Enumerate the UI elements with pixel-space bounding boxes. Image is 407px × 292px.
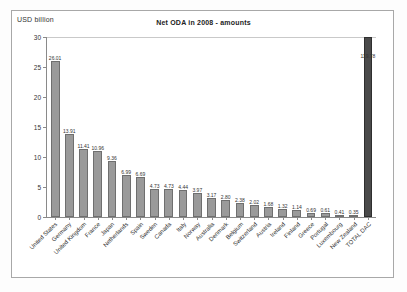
bar-series: 26.0113.9111.4110.969.366.996.694.734.73…: [47, 36, 376, 217]
x-axis-tick-slot: [361, 217, 375, 220]
bar[interactable]: 11.41: [79, 149, 88, 217]
x-axis-tick-slot: [347, 217, 361, 220]
bar-slot[interactable]: 2.80: [219, 36, 233, 217]
x-axis-tick-mark: [98, 217, 99, 220]
x-axis-tick-mark: [311, 217, 312, 220]
bar-value-label: 9.36: [107, 156, 117, 161]
bar-slot[interactable]: 6.69: [133, 36, 147, 217]
bar-slot[interactable]: 119.78: [361, 36, 375, 217]
bar[interactable]: 1.68: [264, 207, 273, 217]
x-axis-tick-mark: [126, 217, 127, 220]
bar-slot[interactable]: 1.68: [261, 36, 275, 217]
chart-title: Net ODA in 2008 - amounts: [0, 19, 407, 26]
x-axis-tick-mark: [183, 217, 184, 220]
bar-slot[interactable]: 10.96: [91, 36, 105, 217]
x-axis-tick-slot: [91, 217, 105, 220]
bar[interactable]: 6.99: [122, 175, 131, 217]
bar-slot[interactable]: 1.14: [290, 36, 304, 217]
bar-value-label: 6.69: [136, 172, 146, 177]
bar-slot[interactable]: 0.35: [347, 36, 361, 217]
bar[interactable]: 3.17: [207, 198, 216, 217]
bar-slot[interactable]: 1.32: [276, 36, 290, 217]
x-axis-tick-mark: [69, 217, 70, 220]
x-axis-tick-mark: [268, 217, 269, 220]
bar-slot[interactable]: 0.41: [332, 36, 346, 217]
y-axis-tick-label: 0: [37, 214, 41, 221]
x-axis-tick-mark: [140, 217, 141, 220]
bar[interactable]: 119.78: [364, 37, 373, 217]
bar[interactable]: 1.32: [278, 209, 287, 217]
bar-slot[interactable]: 13.91: [62, 36, 76, 217]
bar[interactable]: 2.38: [236, 203, 245, 217]
bar[interactable]: 4.73: [150, 189, 159, 217]
x-axis-tick-mark: [254, 217, 255, 220]
bar-value-label: 10.96: [92, 146, 105, 151]
bar[interactable]: 4.73: [164, 189, 173, 217]
x-axis-tick-mark: [297, 217, 298, 220]
x-axis-tick-slot: [148, 217, 162, 220]
x-axis-tick-slot: [62, 217, 76, 220]
y-axis-tick-label: 25: [34, 64, 41, 71]
bar[interactable]: 2.80: [221, 200, 230, 217]
bar-value-label: 26.01: [49, 56, 62, 61]
x-axis-tick-slot: [204, 217, 218, 220]
bar-slot[interactable]: 0.69: [304, 36, 318, 217]
bar-value-label: 3.97: [192, 188, 202, 193]
x-axis-tick-slot: [48, 217, 62, 220]
bar-slot[interactable]: 11.41: [76, 36, 90, 217]
bar-slot[interactable]: 0.61: [318, 36, 332, 217]
x-axis-tick-slot: [332, 217, 346, 220]
bar-value-label: 11.41: [77, 144, 89, 149]
bar[interactable]: 6.69: [136, 177, 145, 217]
bar[interactable]: 9.36: [108, 161, 117, 217]
bar-slot[interactable]: 2.02: [247, 36, 261, 217]
bar-value-label: 0.35: [349, 210, 359, 215]
bar[interactable]: 4.44: [179, 190, 188, 217]
bar-value-label: 2.80: [221, 195, 231, 200]
x-axis-tick-slot: [276, 217, 290, 220]
x-axis-label-slot: TOTAL DAC: [361, 221, 375, 281]
bar-slot[interactable]: 2.38: [233, 36, 247, 217]
bar-value-label: 4.73: [150, 184, 160, 189]
bar[interactable]: 2.02: [250, 205, 259, 217]
x-axis-labels: United StatesGermanyUnited KingdomFrance…: [46, 221, 376, 281]
x-axis-tick-mark: [240, 217, 241, 220]
bar-slot[interactable]: 4.73: [162, 36, 176, 217]
x-axis-tick-slot: [318, 217, 332, 220]
x-axis-tick-slot: [190, 217, 204, 220]
bar[interactable]: 26.01: [51, 61, 60, 217]
bar-value-label: 119.78: [360, 54, 375, 59]
x-axis-tick-mark: [55, 217, 56, 220]
bar[interactable]: 1.14: [292, 210, 301, 217]
x-axis-tick-slot: [76, 217, 90, 220]
bar[interactable]: 3.97: [193, 193, 202, 217]
x-axis-tick-mark: [155, 217, 156, 220]
bar[interactable]: 13.91: [65, 134, 74, 217]
bar-value-label: 4.73: [164, 184, 174, 189]
bar-value-label: 0.69: [306, 208, 316, 213]
bar-slot[interactable]: 4.73: [148, 36, 162, 217]
bar-value-label: 4.44: [178, 185, 188, 190]
y-axis-tick-label: 20: [34, 94, 41, 101]
bar-value-label: 3.17: [207, 193, 217, 198]
x-axis-ticks: [47, 217, 376, 220]
x-axis-tick-slot: [247, 217, 261, 220]
x-axis-tick-mark: [226, 217, 227, 220]
bar-slot[interactable]: 4.44: [176, 36, 190, 217]
x-axis-tick-mark: [212, 217, 213, 220]
x-axis-tick-mark: [169, 217, 170, 220]
x-axis-tick-mark: [354, 217, 355, 220]
x-axis-tick-slot: [176, 217, 190, 220]
x-axis-tick-slot: [219, 217, 233, 220]
bar-slot[interactable]: 26.01: [48, 36, 62, 217]
x-axis-tick-slot: [162, 217, 176, 220]
x-axis-tick-slot: [233, 217, 247, 220]
x-axis-tick-slot: [133, 217, 147, 220]
bar-slot[interactable]: 9.36: [105, 36, 119, 217]
bar-slot[interactable]: 3.17: [204, 36, 218, 217]
bar-slot[interactable]: 6.99: [119, 36, 133, 217]
bar-slot[interactable]: 3.97: [190, 36, 204, 217]
bar[interactable]: 10.96: [93, 151, 102, 217]
x-axis-tick-mark: [339, 217, 340, 220]
bar-value-label: 2.02: [249, 200, 259, 205]
